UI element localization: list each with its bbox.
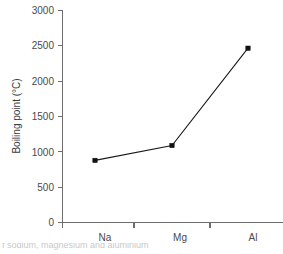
y-tick-label-2000: 2000 [32,76,55,87]
y-axis-title: Boiling point (°C) [11,78,22,153]
x-tick-label-na: Na [99,232,112,243]
y-tick-label-500: 500 [37,182,54,193]
data-point-na [93,158,97,162]
y-tick-label-1500: 1500 [32,111,55,122]
chart-figure: Boiling point (°C) 3000 2500 2000 1500 1… [0,0,283,254]
data-point-mg [170,143,174,147]
x-tick-label-al: Al [249,232,258,243]
y-tick-label-0: 0 [48,217,54,228]
data-point-al [246,46,250,50]
line-chart: Boiling point (°C) 3000 2500 2000 1500 1… [0,0,283,254]
x-tick-label-mg: Mg [173,232,187,243]
y-tick-label-3000: 3000 [32,5,55,16]
y-tick-label-1000: 1000 [32,147,55,158]
figure-caption: f sodium, magnesium and aluminium [0,243,283,254]
y-tick-label-2500: 2500 [32,40,55,51]
figure-caption-text: f sodium, magnesium and aluminium [2,243,283,251]
